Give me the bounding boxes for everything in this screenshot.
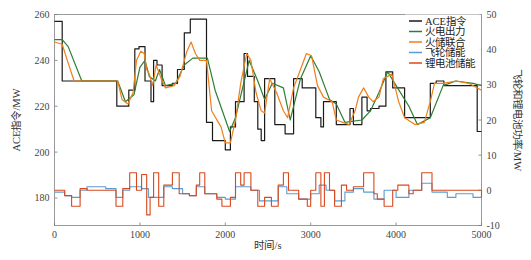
y-left-tick-label: 200	[35, 147, 50, 158]
legend: ACE指令 火电出力 火储联合 飞轮储能 锂电池储能	[405, 15, 481, 73]
y-right-tick-label: 40	[487, 44, 497, 55]
dual-axis-line-chart: 010002000300040005000180200220240260-100…	[0, 0, 531, 260]
legend-label: 飞轮储能	[425, 46, 466, 58]
x-tick-label: 3000	[301, 229, 321, 240]
y-right-tick-label: 50	[487, 9, 497, 20]
y-left-tick-label: 260	[35, 9, 50, 20]
y-left-tick-label: 180	[35, 192, 50, 203]
y-right-tick-label: 0	[487, 185, 492, 196]
x-tick-label: 0	[52, 229, 57, 240]
legend-label: 火储联合	[425, 36, 466, 48]
y-right-tick-label: -10	[487, 220, 500, 231]
y-axis-right-title: 飞轮和锂电池功率/MW	[512, 69, 524, 171]
x-axis-title: 时间/s	[254, 239, 281, 251]
series-line-3	[55, 183, 482, 201]
legend-label: 锂电池储能	[425, 57, 476, 69]
legend-label: ACE指令	[425, 15, 467, 27]
y-right-tick-label: 10	[487, 150, 497, 161]
x-tick-label: 2000	[215, 229, 235, 240]
legend-label: 火电出力	[425, 25, 465, 37]
x-tick-label: 1000	[130, 229, 150, 240]
y-right-tick-label: 30	[487, 79, 497, 90]
y-right-tick-label: 20	[487, 115, 497, 126]
x-tick-label: 4000	[386, 229, 406, 240]
y-left-tick-label: 220	[35, 101, 50, 112]
y-left-tick-label: 240	[35, 55, 50, 66]
y-axis-left-title: ACE指令/MW	[10, 88, 22, 151]
series-line-4	[55, 173, 482, 215]
